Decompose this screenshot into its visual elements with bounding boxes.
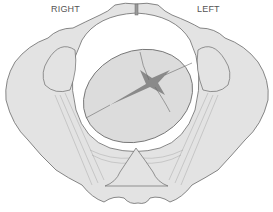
pubic-symphysis (135, 4, 138, 15)
pelvis-diagram (0, 0, 273, 212)
